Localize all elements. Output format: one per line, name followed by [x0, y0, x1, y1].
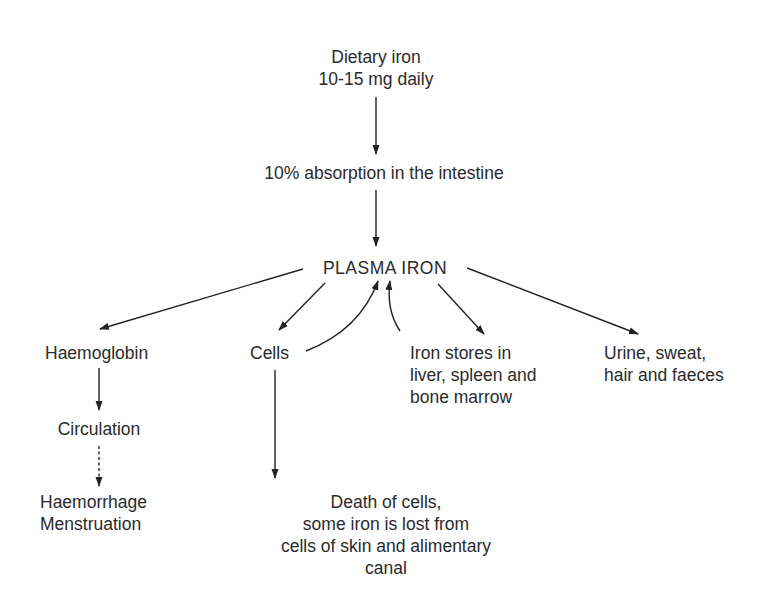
- node-plasma-line-1: PLASMA IRON: [323, 257, 447, 279]
- arrow-plasma-to-haemoglobin: [100, 269, 303, 329]
- node-haemoglobin: Haemoglobin: [45, 342, 148, 364]
- node-haemoglobin-line-1: Haemoglobin: [45, 342, 148, 364]
- node-death-line-3: cells of skin and alimentary: [281, 535, 491, 557]
- node-dietary-line-2: 10-15 mg daily: [319, 68, 434, 90]
- node-death-line-2: some iron is lost from: [281, 513, 491, 535]
- node-dietary-line-1: Dietary iron: [319, 46, 434, 68]
- node-excretion-line-2: hair and faeces: [604, 364, 724, 386]
- arrow-plasma-to-excretion: [467, 268, 638, 334]
- node-dietary-iron: Dietary iron 10-15 mg daily: [319, 46, 434, 90]
- arrow-stores-to-plasma: [389, 281, 400, 331]
- node-cells-line-1: Cells: [250, 342, 289, 364]
- node-circulation: Circulation: [58, 418, 141, 440]
- node-absorption-line-1: 10% absorption in the intestine: [264, 162, 503, 184]
- node-death-line-1: Death of cells,: [281, 491, 491, 513]
- diagram-canvas: Dietary iron 10-15 mg daily 10% absorpti…: [0, 0, 777, 606]
- node-excretion: Urine, sweat, hair and faeces: [604, 342, 724, 386]
- node-plasma-iron: PLASMA IRON: [323, 257, 447, 279]
- node-absorption: 10% absorption in the intestine: [264, 162, 503, 184]
- node-excretion-line-1: Urine, sweat,: [604, 342, 724, 364]
- node-cells: Cells: [250, 342, 289, 364]
- node-stores-line-2: liver, spleen and: [410, 364, 536, 386]
- node-death-of-cells: Death of cells, some iron is lost from c…: [281, 491, 491, 579]
- node-loss-line-2: Menstruation: [40, 513, 147, 535]
- node-blood-loss: Haemorrhage Menstruation: [40, 491, 147, 535]
- arrow-plasma-to-cells: [279, 283, 325, 330]
- node-iron-stores: Iron stores in liver, spleen and bone ma…: [410, 342, 536, 408]
- node-death-line-4: canal: [281, 557, 491, 579]
- arrow-plasma-to-stores: [438, 284, 484, 334]
- node-loss-line-1: Haemorrhage: [40, 491, 147, 513]
- node-stores-line-3: bone marrow: [410, 386, 536, 408]
- node-stores-line-1: Iron stores in: [410, 342, 536, 364]
- node-circulation-line-1: Circulation: [58, 418, 141, 440]
